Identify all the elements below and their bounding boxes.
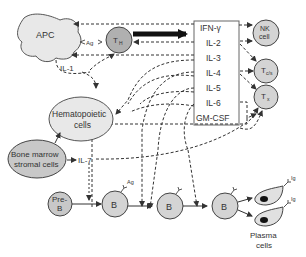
b1-label: B	[111, 200, 117, 210]
il6-curve-3	[184, 104, 194, 150]
il1-to-hematopoietic-arrow	[82, 72, 96, 88]
tx-label: T	[261, 92, 266, 101]
il6-curve-2	[130, 104, 194, 112]
il6-to-tx-arrow	[240, 102, 256, 118]
il6-to-b2-arrow	[188, 150, 197, 206]
b1-ag-label: Ag	[127, 179, 134, 185]
ig1-label: Ig	[291, 175, 296, 181]
ig1-icon	[284, 179, 291, 186]
ig2-icon	[284, 200, 291, 207]
bone-marrow-stromal-cells	[8, 140, 66, 178]
plasma-label: Plasma	[250, 231, 277, 240]
ig2-label: Ig	[291, 196, 296, 202]
cytokine-il2: IL-2	[206, 38, 221, 48]
th-subscript: H	[119, 40, 123, 46]
cytokine-il3: IL-3	[206, 53, 221, 63]
b1-receptor-icon	[121, 185, 127, 192]
hematopoietic-cells	[49, 97, 113, 141]
il1-label: IL-1	[60, 64, 74, 73]
th-label: T	[113, 36, 118, 45]
cytokine-il6: IL-6	[206, 98, 221, 108]
cytokine-il5: IL-5	[206, 83, 221, 93]
bone-marrow-label-2: stromal cells	[14, 160, 58, 169]
il1-to-th-arrow	[90, 54, 114, 70]
pre-b-label-2: B	[57, 204, 62, 213]
b2-label: B	[166, 202, 172, 212]
cytokine-ifn-gamma: IFN-γ	[200, 23, 222, 33]
gmcsf-to-tx-arrow	[240, 111, 262, 129]
cytokine-il4: IL-4	[206, 68, 221, 78]
apc-label: APC	[36, 30, 55, 40]
plasma-label-2: cells	[256, 241, 272, 250]
plasma-cell-2-nucleus	[260, 217, 268, 223]
gmcsf-curve	[128, 75, 194, 104]
b2-receptor-icon	[176, 187, 182, 194]
b3-to-plasma1-arrow	[238, 198, 252, 202]
hematopoietic-label: Hematopoietic	[52, 109, 107, 119]
bone-marrow-label: Bone marrow	[11, 150, 59, 159]
pre-b-label: Pre-	[52, 195, 67, 204]
il3-to-hematopoietic-arrow	[116, 60, 194, 114]
tcr-receptor-icon	[98, 40, 102, 44]
tcs-subscript: c/s	[266, 70, 273, 76]
nk-label-2: cell	[259, 33, 270, 40]
il5-curve	[140, 92, 194, 105]
b3-to-plasma2-arrow	[238, 210, 252, 216]
plasma-cell-1	[255, 186, 283, 205]
b3-receptor-icon	[231, 187, 237, 194]
nk-label: NK	[260, 25, 270, 32]
tx-cell	[254, 85, 278, 109]
hematopoietic-label-2: cells	[74, 120, 91, 130]
b3-label: B	[221, 202, 227, 212]
ag-apc-label: Ag	[86, 40, 93, 46]
plasma-cell-1-nucleus	[260, 196, 268, 202]
il7-label: IL-7	[78, 156, 92, 165]
plasma-cell-2	[255, 207, 283, 226]
il4-to-tx-arrow	[240, 74, 256, 89]
cytokine-network-diagram: APC Ag T H IFN-γ IL-2 IL-3 IL-4 IL-5 IL-…	[0, 0, 306, 257]
cytokine-gmcsf: GM-CSF	[196, 113, 230, 123]
il2-to-tcs-arrow	[240, 44, 256, 61]
